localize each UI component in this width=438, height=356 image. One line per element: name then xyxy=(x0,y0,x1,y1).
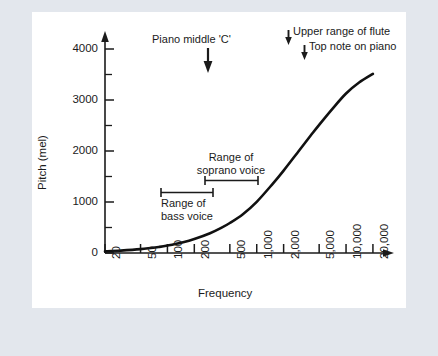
x-tick-label-20000: 20,000 xyxy=(378,224,390,259)
top-note-on-piano-arrow xyxy=(301,45,308,60)
annotation-bass-line-2: bass voice xyxy=(161,210,213,223)
y-axis-title: Pitch (mel) xyxy=(36,135,48,190)
x-tick-label-10000: 10,000 xyxy=(351,224,363,259)
x-tick-label-2000: 2,000 xyxy=(289,230,301,259)
range-of-bass-voice-bar xyxy=(161,188,213,197)
y-tick-label-3000: 3000 xyxy=(46,93,98,105)
y-tick-label-2000: 2000 xyxy=(46,144,98,156)
annotation-piano-middle-c: Piano middle 'C' xyxy=(152,33,231,46)
screenshot-root: 0 1000 2000 3000 4000 Pitch (mel) 205010… xyxy=(0,0,438,356)
piano-middle-c-arrow xyxy=(204,48,213,73)
y-tick-label-4000: 4000 xyxy=(46,42,98,54)
x-tick-label-50: 50 xyxy=(146,246,158,259)
y-major-ticks xyxy=(105,49,114,253)
annotation-top-note-on-piano: Top note on piano xyxy=(309,40,396,53)
x-tick-label-20: 20 xyxy=(110,246,122,259)
annotation-bass-line-1: Range of xyxy=(161,197,206,210)
x-tick-label-100: 100 xyxy=(172,240,184,259)
x-tick-label-5000: 5,000 xyxy=(324,230,336,259)
x-tick-label-1000: 1,000 xyxy=(262,230,274,259)
y-tick-label-0: 0 xyxy=(60,246,98,258)
y-tick-label-1000: 1000 xyxy=(46,195,98,207)
annotation-upper-range-of-flute: Upper range of flute xyxy=(293,25,390,38)
x-tick-label-200: 200 xyxy=(199,240,211,259)
annotation-soprano-line-1: Range of xyxy=(192,151,270,164)
upper-range-of-flute-arrow xyxy=(285,30,292,45)
x-axis-title: Frequency xyxy=(198,287,252,299)
y-axis xyxy=(101,31,109,253)
annotation-soprano-line-2: soprano voice xyxy=(192,164,270,177)
range-of-soprano-voice-bar xyxy=(205,176,258,185)
x-tick-label-500: 500 xyxy=(235,240,247,259)
figure-panel: 0 1000 2000 3000 4000 Pitch (mel) 205010… xyxy=(32,12,406,308)
